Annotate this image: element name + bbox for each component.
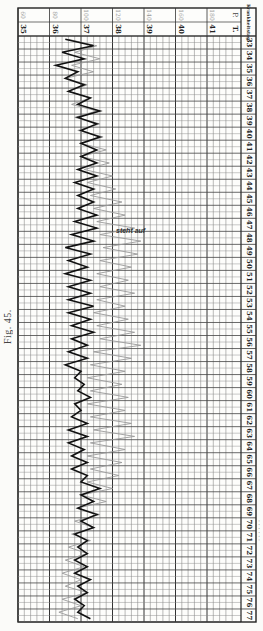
day-label: 48 — [245, 233, 254, 243]
day-label: 66 — [245, 467, 254, 477]
temp-tick-label: 41 — [208, 24, 217, 34]
day-label: 76 — [245, 598, 254, 608]
temp-axis-label: T. — [231, 26, 240, 33]
day-label: 70 — [245, 519, 254, 529]
chart-grid — [18, 8, 256, 622]
day-label: 39 — [245, 116, 254, 126]
temp-tick-label: 35 — [19, 24, 28, 34]
day-label: 49 — [245, 246, 254, 256]
day-label: 64 — [245, 441, 254, 451]
pulse-tick-label: 120 — [115, 9, 122, 21]
day-label: 57 — [245, 350, 254, 360]
day-label: 62 — [245, 415, 254, 425]
day-label: 59 — [245, 376, 254, 386]
day-label: 75 — [245, 585, 254, 595]
figure-label: Fig. 45. — [2, 284, 16, 344]
pulse-tick-label: 60 — [20, 11, 27, 19]
day-label: 44 — [245, 181, 254, 191]
day-label: 52 — [245, 285, 254, 295]
day-label: 47 — [245, 220, 254, 230]
day-label: 35 — [245, 64, 254, 74]
day-label: 36 — [245, 77, 254, 87]
day-label: 71 — [245, 532, 254, 542]
temp-tick-label: 40 — [177, 24, 186, 34]
day-label: 72 — [245, 546, 254, 556]
day-label: 45 — [245, 194, 254, 204]
pulse-tick-label: 100 — [83, 9, 90, 21]
day-label: 33 — [245, 38, 254, 48]
day-label: 53 — [245, 298, 254, 308]
pulse-tick-label: 180 — [209, 9, 216, 21]
day-label: 46 — [245, 207, 254, 217]
day-label: 43 — [245, 168, 254, 178]
pulse-tick-label: 160 — [178, 9, 185, 21]
day-label: 73 — [245, 559, 254, 569]
temp-tick-label: 37 — [82, 24, 91, 34]
day-label: 41 — [245, 142, 254, 152]
day-label: 50 — [245, 259, 254, 269]
temp-tick-label: 39 — [145, 24, 154, 34]
day-label: 68 — [245, 493, 254, 503]
day-label: 77 — [245, 611, 254, 621]
day-label: 37 — [245, 90, 254, 100]
day-label: 56 — [245, 337, 254, 347]
day-label: 67 — [245, 480, 254, 490]
day-label: 42 — [245, 155, 254, 165]
pulse-tick-label: 140 — [146, 9, 153, 21]
day-axis-title: Krankheitstag — [246, 4, 251, 41]
day-label: 54 — [245, 311, 254, 321]
day-label: 58 — [245, 363, 254, 373]
day-label: 60 — [245, 389, 254, 399]
temp-tick-label: 36 — [51, 24, 60, 34]
pulse-axis-label: P. — [231, 12, 239, 18]
fever-chart: 353637383940416080100120140160180P.T.Kra… — [0, 0, 263, 631]
temp-tick-label: 38 — [114, 24, 123, 34]
day-label: 61 — [245, 402, 254, 412]
day-label: 55 — [245, 324, 254, 334]
annotation-steht-auf: steht auf — [116, 227, 146, 234]
day-label: 63 — [245, 428, 254, 438]
day-label: 51 — [245, 272, 254, 282]
day-label: 34 — [245, 51, 254, 61]
day-label: 74 — [245, 572, 254, 582]
day-label: 65 — [245, 454, 254, 464]
day-label: 40 — [245, 129, 254, 139]
day-label: 69 — [245, 506, 254, 516]
day-label: 38 — [245, 103, 254, 113]
pulse-tick-label: 80 — [52, 11, 59, 19]
side-caption: · · · · · · — [256, 520, 263, 620]
